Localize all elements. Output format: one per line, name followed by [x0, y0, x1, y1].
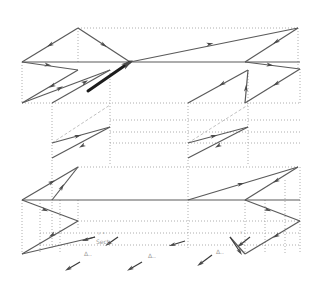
annotation-label: Δ..	[84, 250, 92, 257]
annotation-labels: Sect..Δ..Δ..Δ..ʸ ˣʸ	[84, 229, 243, 259]
edge-line	[52, 167, 78, 200]
wireframe-vector-diagram: Sect..Δ..Δ..Δ..ʸ ˣʸ	[0, 0, 323, 289]
small-vector-line	[200, 255, 212, 264]
arrow-head-icons	[41, 39, 280, 240]
annotation-label: Δ..	[216, 248, 224, 255]
edge-line	[130, 28, 298, 62]
edge-line	[245, 167, 298, 200]
small-vector-arrowhead-icon	[64, 266, 72, 273]
small-vector-line	[68, 262, 80, 269]
small-vector-line	[230, 237, 240, 252]
edge-line	[22, 167, 78, 200]
edge-line	[52, 127, 110, 143]
dashed-guide-line	[188, 105, 248, 143]
edge-line	[52, 127, 110, 158]
edge-line	[22, 62, 78, 70]
annotation-label: Δ..	[148, 252, 156, 259]
arrowhead-icon	[237, 181, 245, 187]
small-vector-line	[130, 262, 142, 269]
edge-line	[245, 200, 300, 221]
dashed-guide-lines	[52, 105, 248, 143]
edge-line	[245, 69, 300, 103]
annotation-label: ʸ	[240, 229, 243, 236]
edge-line	[188, 70, 248, 103]
dashed-guide-line	[52, 105, 110, 143]
edge-line	[22, 221, 78, 254]
small-vector-arrowhead-icon	[126, 266, 134, 273]
annotation-label: ʸ ˣ	[98, 230, 105, 237]
small-vector-line	[240, 237, 250, 245]
edge-line	[22, 70, 78, 103]
arrowhead-icon	[210, 133, 218, 139]
annotation-label: Sect..	[96, 238, 113, 245]
edge-line	[22, 200, 78, 221]
edge-line	[188, 127, 248, 143]
edge-line	[245, 221, 300, 254]
edge-line	[52, 70, 110, 103]
solid-edges	[22, 28, 300, 254]
